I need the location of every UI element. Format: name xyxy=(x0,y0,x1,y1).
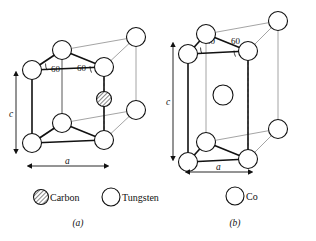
atom-carbon xyxy=(97,92,112,107)
legend-carbon-swatch-icon xyxy=(34,190,49,205)
atom-tungsten xyxy=(53,41,72,60)
legend-tungsten-swatch-icon xyxy=(102,188,120,206)
atom-tungsten xyxy=(95,131,114,150)
legend-cobalt-swatch-icon xyxy=(226,187,244,205)
atom-cobalt xyxy=(197,133,216,152)
atom-cobalt xyxy=(239,150,258,169)
panel-b-angle-label-right: 60 xyxy=(231,36,241,46)
panel-b-dim-c: c xyxy=(166,47,173,156)
panel-a-dim-a-label: a xyxy=(65,156,70,166)
atom-tungsten xyxy=(23,134,42,153)
atom-cobalt xyxy=(269,120,288,139)
atom-cobalt xyxy=(239,42,258,61)
atom-tungsten xyxy=(23,61,42,80)
panel-a-unit-cell: 60 60 c a Carbon xyxy=(9,28,159,230)
panel-a-caption: (a) xyxy=(72,218,83,229)
panel-b-unit-cell: 60 60 c a Co (b) xyxy=(166,12,288,230)
panel-a-dim-c: c xyxy=(9,76,16,149)
panel-a-dim-a: a xyxy=(32,156,104,166)
legend-cobalt-label: Co xyxy=(246,191,258,202)
panel-a-dim-c-label: c xyxy=(9,109,14,119)
atom-tungsten xyxy=(95,58,114,77)
atom-tungsten xyxy=(127,101,146,120)
panel-a-angle-label-left: 60 xyxy=(51,64,61,74)
atom-cobalt xyxy=(197,25,216,44)
crystal-diagram-canvas: 60 60 c a Carbon xyxy=(0,0,316,241)
panel-b-dim-c-label: c xyxy=(166,97,171,107)
atom-cobalt xyxy=(269,12,288,31)
crystal-structure-figure: 60 60 c a Carbon xyxy=(0,0,316,241)
panel-a-angle-label-right: 60 xyxy=(77,63,87,73)
atom-cobalt xyxy=(179,45,198,64)
panel-a-back-edges xyxy=(32,37,136,143)
atom-tungsten xyxy=(127,28,146,47)
panel-b-caption: (b) xyxy=(229,218,240,229)
panel-b-dim-a-label: a xyxy=(216,162,221,172)
panel-b-legend: Co xyxy=(226,187,258,205)
legend-tungsten-label: Tungsten xyxy=(122,192,159,203)
panel-a-legend: Carbon Tungsten xyxy=(34,188,159,206)
legend-carbon-label: Carbon xyxy=(50,192,79,203)
atom-tungsten xyxy=(53,114,72,133)
atom-cobalt-interior xyxy=(213,85,233,105)
atom-cobalt xyxy=(179,153,198,172)
